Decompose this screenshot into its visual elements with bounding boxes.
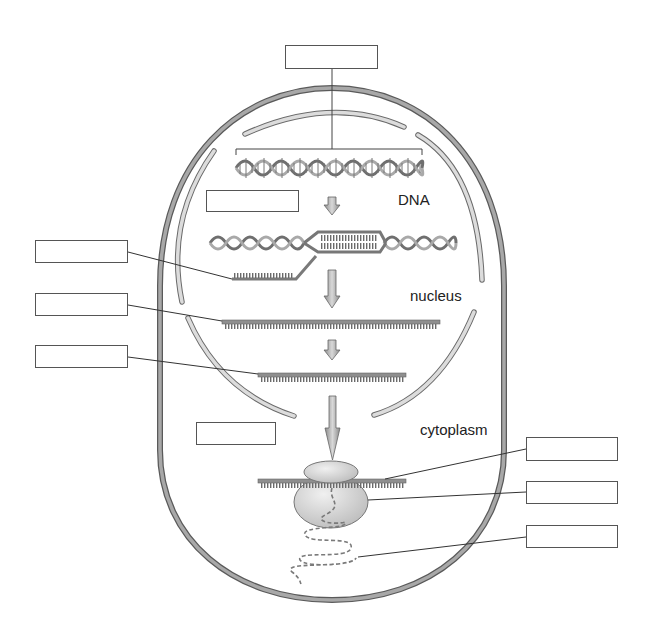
ribosome-complex: [258, 461, 406, 584]
label-box-polypeptide[interactable]: [526, 525, 618, 548]
label-box-pre-mrna[interactable]: [35, 293, 128, 316]
mrna-strand: [258, 373, 406, 382]
dna-label: DNA: [398, 191, 430, 208]
arrow-splicing: [324, 340, 340, 360]
label-box-mrna[interactable]: [35, 345, 128, 368]
arrow-transcription-1: [324, 197, 340, 215]
protein-synthesis-diagram: DNA nucleus cytoplasm: [0, 0, 652, 636]
label-box-transcription[interactable]: [206, 190, 299, 212]
label-box-mrna-ribosome[interactable]: [526, 437, 618, 461]
arrow-translation: [325, 396, 340, 460]
label-box-translation[interactable]: [196, 422, 276, 445]
dna-double-helix: [236, 158, 423, 178]
pre-mrna-strand: [222, 320, 440, 329]
label-box-rna-transcript[interactable]: [35, 240, 128, 263]
nucleus-label: nucleus: [410, 287, 462, 304]
label-box-ribosome[interactable]: [526, 481, 618, 504]
ribosome-small-subunit: [304, 461, 358, 483]
cytoplasm-label: cytoplasm: [420, 421, 488, 438]
nuclear-envelope: [178, 113, 482, 416]
arrow-processing: [324, 270, 340, 308]
label-box-gene[interactable]: [285, 45, 378, 69]
